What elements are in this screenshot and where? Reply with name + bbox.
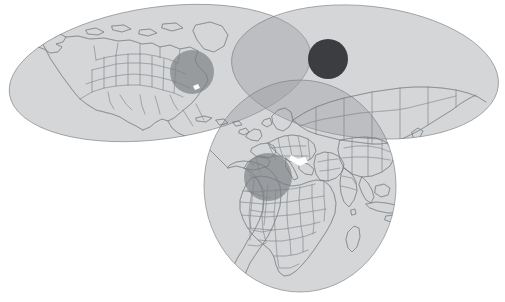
eastern-us-circle[interactable] xyxy=(170,50,214,94)
figure-canvas: World map with three overlapping regiona… xyxy=(0,0,505,302)
europe-africa-ellipse[interactable] xyxy=(204,80,396,292)
east-asia-circle[interactable] xyxy=(308,39,348,79)
world-map-figure: World map with three overlapping regiona… xyxy=(0,0,505,302)
